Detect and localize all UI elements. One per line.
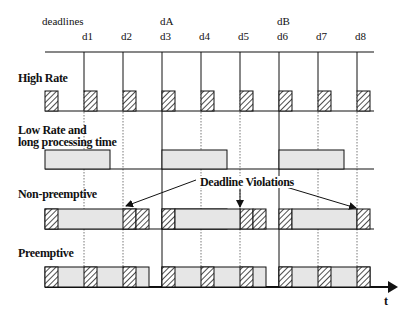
deadline-label-d7: d7 [316, 31, 327, 42]
deadline-violations-annotation: Deadline Violations [199, 176, 295, 188]
deadline-label-d2: d2 [121, 31, 132, 42]
deadline-label-d4: d4 [199, 31, 210, 42]
time-arrow-icon [388, 281, 398, 293]
non-preemptive-row [45, 209, 374, 229]
deadline-label-d8: d8 [355, 31, 366, 42]
time-axis-label: t [384, 295, 388, 307]
timing-diagram [0, 0, 408, 318]
deadline-label-d6: d6 [277, 31, 288, 42]
high-rate-row [45, 91, 374, 111]
deadline-label-d5: d5 [238, 31, 249, 42]
deadlines-label: deadlines [42, 16, 84, 27]
row-label-preemptive: Preemptive [18, 247, 73, 259]
row-label-low-rate-line2: long processing time [18, 136, 116, 148]
deadline-label-dA: dA [160, 16, 173, 27]
deadline-label-dB: dB [277, 16, 290, 27]
deadline-label-d3: d3 [160, 31, 171, 42]
row-label-high-rate: High Rate [18, 72, 68, 84]
preemptive-row [45, 267, 398, 293]
row-label-non-preemptive: Non-preemptive [18, 188, 97, 200]
deadline-label-d1: d1 [82, 31, 93, 42]
low-rate-row [45, 150, 374, 169]
